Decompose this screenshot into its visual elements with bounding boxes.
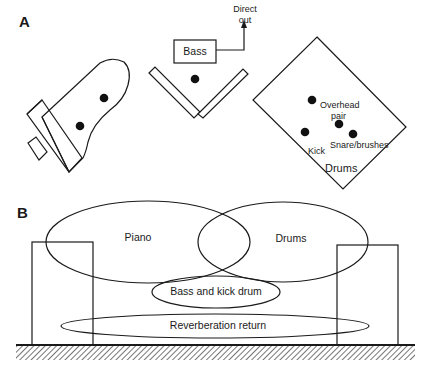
overhead-mic-1: [308, 96, 317, 105]
snare-mic: [349, 130, 358, 139]
bass-setup: Bass Direct out: [149, 4, 257, 118]
drums-setup: Overhead pair Kick Snare/brushes Drums: [253, 37, 406, 189]
piano-zone-label: Piano: [125, 231, 152, 243]
kick-mic: [301, 128, 310, 137]
direct-out-line: [216, 24, 244, 50]
piano-plan-icon: [27, 59, 129, 172]
overhead-label-1: Overhead: [320, 100, 360, 110]
floor-hatching: [16, 346, 415, 360]
direct-out-label-1: Direct: [233, 4, 257, 14]
panel-a-label: A: [19, 13, 30, 30]
drums-label: Drums: [325, 162, 358, 174]
drums-zone-label: Drums: [276, 232, 307, 244]
snare-label: Snare/brushes: [330, 140, 389, 150]
reverb-zone-label: Reverberation return: [170, 319, 266, 331]
piano-mic-1: [100, 94, 109, 103]
panel-b-label: B: [17, 204, 28, 221]
bass-kick-zone-label: Bass and kick drum: [170, 285, 262, 297]
right-monitor: [337, 245, 398, 345]
piano-mic-2: [76, 122, 85, 131]
direct-out-label-2: out: [239, 15, 252, 25]
bass-mic: [191, 75, 200, 84]
bass-label: Bass: [183, 45, 206, 57]
kick-label: Kick: [308, 146, 326, 156]
recording-setup-diagram: A Bass Direct out Overhead pair Kick: [0, 0, 430, 372]
left-monitor: [32, 242, 93, 345]
baffle-right: [198, 69, 248, 118]
baffle-left: [149, 67, 200, 118]
overhead-label-2: pair: [331, 111, 346, 121]
